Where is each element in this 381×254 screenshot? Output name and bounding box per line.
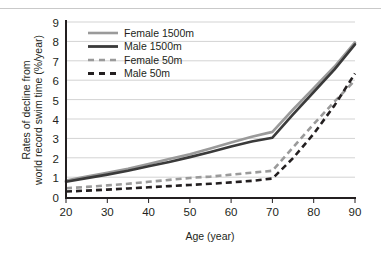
x-tick-label-50: 50 bbox=[184, 206, 197, 218]
y-axis-title: Rates of decline from world record swim … bbox=[20, 35, 44, 186]
x-tick-labels: 20 30 40 50 60 70 80 90 bbox=[60, 206, 362, 218]
legend: Female 1500m Male 1500m Female 50m Male … bbox=[88, 27, 194, 80]
x-tick-label-30: 30 bbox=[101, 206, 114, 218]
y-tick-label-8: 8 bbox=[53, 36, 59, 48]
series-line-female-1500m bbox=[66, 42, 355, 180]
y-tick-label-9: 9 bbox=[53, 17, 59, 29]
y-tick-labels: 0 1 2 3 4 5 6 7 8 9 bbox=[53, 17, 60, 204]
y-tick-label-3: 3 bbox=[53, 133, 59, 145]
legend-label-female-50m: Female 50m bbox=[124, 54, 183, 66]
series-layer bbox=[66, 42, 355, 191]
line-chart-svg: 20 30 40 50 60 70 80 90 0 1 2 3 4 5 6 7 … bbox=[0, 0, 381, 254]
y-axis-title-line1: Rates of decline from bbox=[20, 60, 32, 159]
x-tick-label-40: 40 bbox=[142, 206, 155, 218]
y-tick-label-5: 5 bbox=[53, 95, 59, 107]
series-line-male-1500m bbox=[66, 44, 355, 181]
legend-label-female-1500m: Female 1500m bbox=[124, 27, 194, 39]
legend-label-male-50m: Male 50m bbox=[124, 67, 170, 79]
x-tick-label-90: 90 bbox=[349, 206, 362, 218]
x-tick-label-70: 70 bbox=[266, 206, 279, 218]
y-tick-label-2: 2 bbox=[53, 153, 59, 165]
x-tick-label-80: 80 bbox=[307, 206, 320, 218]
y-tick-label-7: 7 bbox=[53, 56, 59, 68]
x-tick-label-20: 20 bbox=[60, 206, 73, 218]
y-tick-label-6: 6 bbox=[53, 75, 59, 87]
x-tick-label-60: 60 bbox=[225, 206, 238, 218]
y-tick-label-1: 1 bbox=[53, 172, 59, 184]
y-tick-label-0: 0 bbox=[53, 192, 59, 204]
y-tick-label-4: 4 bbox=[53, 114, 60, 126]
y-axis-title-line2: world record swim time (%/year) bbox=[32, 35, 44, 186]
x-axis-title: Age (year) bbox=[185, 230, 234, 242]
legend-label-male-1500m: Male 1500m bbox=[124, 40, 182, 52]
chart-figure: 20 30 40 50 60 70 80 90 0 1 2 3 4 5 6 7 … bbox=[0, 0, 381, 254]
